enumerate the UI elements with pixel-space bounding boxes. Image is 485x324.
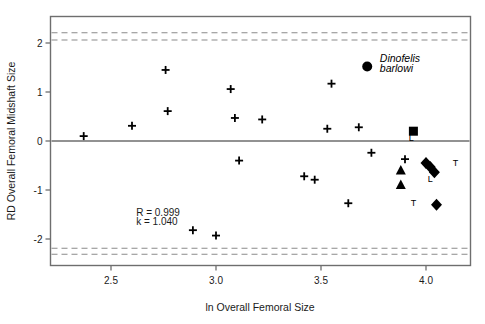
annotation-slope: k = 1.040 xyxy=(136,216,178,227)
x-axis-title: ln Overall Femoral Size xyxy=(205,301,314,313)
x-tick-label-0: 2.5 xyxy=(104,275,118,286)
y-tick-label-3: -1 xyxy=(34,185,43,196)
figure-background xyxy=(0,0,485,324)
x-tick-label-3: 4.0 xyxy=(419,275,433,286)
y-tick-label-4: -2 xyxy=(34,234,43,245)
y-tick-label-2: 0 xyxy=(37,136,43,147)
y-tick-label-0: 2 xyxy=(37,38,43,49)
point-label-l-0: L xyxy=(409,133,414,143)
species-label-line2: barlowi xyxy=(380,62,414,74)
chart-figure: 2.53.03.54.0 210-1-2 LTLT R = 0.999 k = … xyxy=(0,0,485,324)
y-tick-label-1: 1 xyxy=(37,87,43,98)
x-tick-label-1: 3.0 xyxy=(209,275,223,286)
point-label-l-2: L xyxy=(428,174,433,184)
x-tick-label-2: 3.5 xyxy=(314,275,328,286)
y-axis-title: RD Overall Femoral Midshaft Size xyxy=(5,61,17,220)
marker-circle-1-0 xyxy=(362,62,372,72)
point-label-t-1: T xyxy=(453,158,459,168)
scatter-plot: 2.53.03.54.0 210-1-2 LTLT R = 0.999 k = … xyxy=(0,0,485,324)
point-label-t-3: T xyxy=(411,198,417,208)
